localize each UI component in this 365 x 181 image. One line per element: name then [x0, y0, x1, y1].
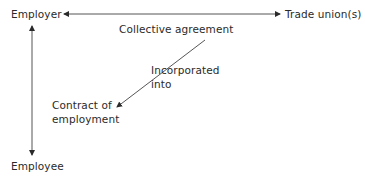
- employee-label: Employee: [11, 160, 64, 173]
- contract-label-line2: employment: [52, 113, 119, 126]
- trade-unions-label: Trade union(s): [285, 8, 361, 21]
- collective-agreement-label: Collective agreement: [119, 23, 233, 36]
- incorporated-label-line1: Incorporated: [151, 64, 220, 77]
- employer-label: Employer: [11, 8, 62, 21]
- incorporated-label-line2: into: [151, 78, 172, 91]
- contract-label-line1: Contract of: [52, 99, 112, 112]
